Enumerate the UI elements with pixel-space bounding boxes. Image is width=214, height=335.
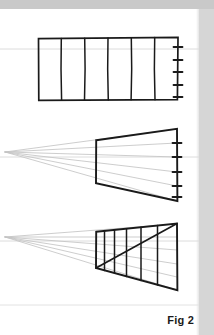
panel-perspective-divided xyxy=(5,224,177,291)
convergence-ray xyxy=(5,143,177,152)
flat-rect-divider-1 xyxy=(61,38,62,100)
convergence-ray xyxy=(5,152,177,157)
figure-page: Fig 2 xyxy=(0,0,214,335)
flat-rect-divider-3 xyxy=(108,38,109,100)
flat-rect-divider-2 xyxy=(85,38,86,100)
panel-flat-grid xyxy=(39,37,183,100)
perspective-trapezoid-outline xyxy=(96,129,177,201)
divided-trapezoid-outline xyxy=(96,224,177,291)
convergence-ray xyxy=(5,237,177,290)
flat-rect-divider-5 xyxy=(154,38,155,100)
convergence-ray xyxy=(5,152,177,201)
convergence-ray xyxy=(5,237,177,250)
figure-caption: Fig 2 xyxy=(167,314,194,326)
convergence-ray xyxy=(5,237,177,277)
convergence-ray-group xyxy=(5,224,177,290)
flat-rect-divider-4 xyxy=(131,38,132,100)
perspective-construction-diagram xyxy=(0,0,214,335)
panel-perspective-blank xyxy=(5,129,182,201)
convergence-ray-group xyxy=(5,129,177,201)
